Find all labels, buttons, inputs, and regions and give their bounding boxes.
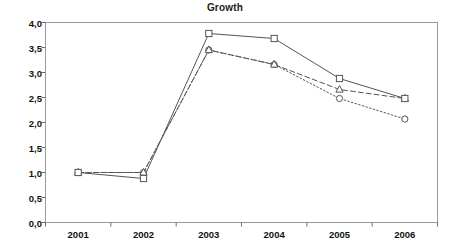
- x-tick-label: 2003: [198, 229, 219, 240]
- x-axis-labels: 200120022003200420052006: [0, 0, 450, 250]
- x-tick-label: 2002: [133, 229, 154, 240]
- x-tick-label: 2005: [329, 229, 350, 240]
- growth-line-chart: Growth 0,00,51,01,52,02,53,03,54,0 20012…: [0, 0, 450, 250]
- x-tick-label: 2004: [264, 229, 285, 240]
- x-tick-label: 2006: [394, 229, 415, 240]
- x-tick-label: 2001: [68, 229, 89, 240]
